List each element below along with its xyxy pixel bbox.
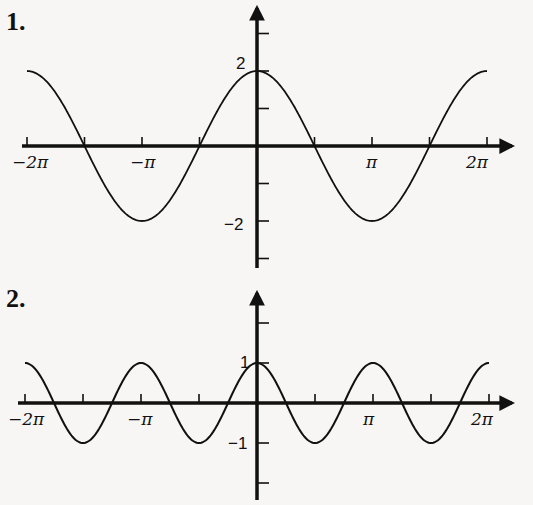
graph-1-xtick-label-neg2pi: −2π	[12, 152, 49, 172]
graph-1-ytick-label-2: 2	[236, 54, 245, 73]
graph-1-ytick-label-neg2: −2	[224, 215, 243, 234]
graph-2-ytick-label-1: 1	[240, 353, 249, 372]
graph-2-ytick-label-neg1: −1	[228, 434, 247, 453]
graph-2: 2. −2π −π π 2π 1 −1	[6, 284, 512, 500]
graph-1-xtick-label-2pi: 2π	[465, 152, 489, 172]
graph-2-xtick-label-neg2pi: −2π	[8, 409, 45, 429]
graph-2-xtick-label-2pi: 2π	[470, 409, 494, 429]
graph-1: 1. −2π −π π 2π 2 −2	[6, 7, 512, 268]
chart-canvas: 1. −2π −π π 2π 2 −2 2. −2π −π π 2π 1 −1	[0, 0, 533, 505]
graph-2-xtick-label-negpi: −π	[127, 409, 153, 429]
graph-1-number: 1.	[6, 7, 26, 36]
graph-1-xtick-label-negpi: −π	[130, 152, 156, 172]
graph-1-xtick-label-pi: π	[365, 152, 378, 172]
graph-2-xtick-label-pi: π	[362, 409, 375, 429]
graph-2-number: 2.	[6, 284, 26, 313]
